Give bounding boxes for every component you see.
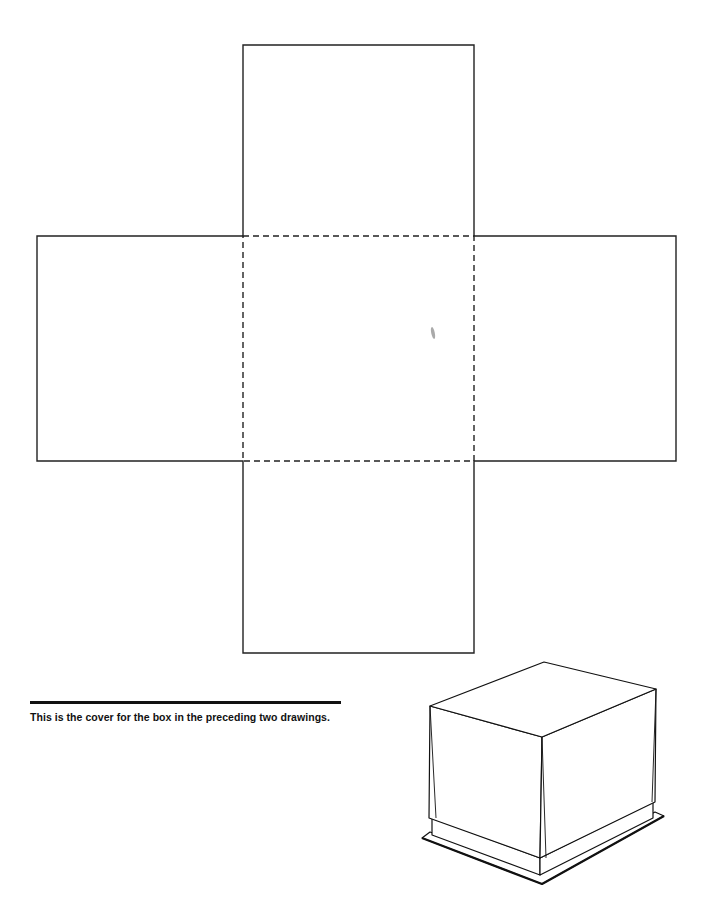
box-cover-net [37,45,676,653]
smudge-mark [430,327,436,339]
fold-lines-center-panel [243,236,474,461]
figure-caption: This is the cover for the box in the pre… [30,711,330,723]
caption-divider [30,701,341,704]
diagram-canvas [0,0,710,902]
assembled-box-illustration [422,662,664,884]
net-outline [37,45,676,653]
